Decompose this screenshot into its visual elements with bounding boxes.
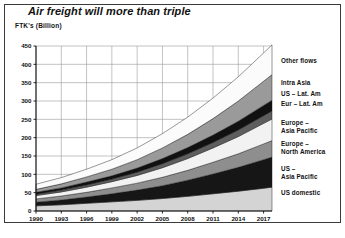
figure-container: Air freight will more than triple FTK's …: [0, 0, 345, 238]
x-tick-label: 1993: [54, 215, 68, 222]
legend-item-us-lat-am: US – Lat. Am: [281, 90, 321, 98]
x-tick-label: 2011: [206, 215, 220, 222]
legend-item-europe-north-america: Europe – North America: [281, 140, 325, 155]
x-tick-label: 1990: [29, 215, 43, 222]
x-tick-label: 2008: [181, 215, 195, 222]
x-tick-label: 2014: [231, 215, 245, 222]
legend-item-intra-asia: Intra Asia: [281, 79, 310, 87]
legend-item-us-domestic: US domestic: [281, 189, 320, 197]
x-tick-label: 1996: [80, 215, 94, 222]
y-tick-label: 50: [25, 189, 32, 196]
y-tick-label: 300: [21, 97, 32, 104]
x-tick-label: 2005: [156, 215, 170, 222]
legend-item-other-flows: Other flows: [281, 57, 317, 65]
y-tick-label: 450: [21, 42, 32, 49]
y-tick-label: 100: [21, 171, 32, 178]
y-tick-label: 200: [21, 134, 32, 141]
x-tick-label: 2002: [130, 215, 144, 222]
y-tick-label: 350: [21, 79, 32, 86]
legend-item-eur-lat-am: Eur – Lat. Am: [281, 100, 323, 108]
legend-item-europe-asia-pacific: Europe – Asia Pacific: [281, 119, 318, 134]
y-tick-label: 400: [21, 61, 32, 68]
x-tick-label: 2017: [257, 215, 271, 222]
y-tick-label: 150: [21, 152, 32, 159]
y-tick-label: 250: [21, 116, 32, 123]
legend-item-us-asia-pacific: US – Asia Pacific: [281, 165, 318, 180]
y-tick-label: 0: [28, 207, 32, 214]
x-tick-label: 1999: [105, 215, 119, 222]
